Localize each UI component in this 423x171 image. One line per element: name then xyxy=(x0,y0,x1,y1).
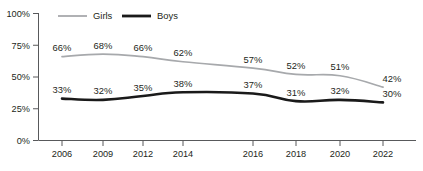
x-axis: 2006 2009 2012 2014 2016 2018 2020 2022 xyxy=(39,141,417,160)
x-axis-label-2012: 2012 xyxy=(133,149,153,159)
data-label-girls-2020: 51% xyxy=(331,61,350,72)
line-chart: 100% 75% 50% 25% 0% 2006 2009 2012 2014 … xyxy=(0,0,423,171)
x-axis-label-2014: 2014 xyxy=(173,149,193,159)
data-label-girls-2018: 52% xyxy=(287,60,306,71)
legend-label-boys: Boys xyxy=(157,10,178,21)
data-label-girls-2012: 66% xyxy=(134,42,153,53)
x-axis-label-2009: 2009 xyxy=(93,149,113,159)
data-label-boys-2018: 31% xyxy=(287,87,306,98)
legend: Girls Boys xyxy=(58,10,178,21)
data-label-boys-2014: 38% xyxy=(174,78,193,89)
data-label-boys-2006: 33% xyxy=(53,84,72,95)
y-axis-label-25: 25% xyxy=(12,104,30,114)
legend-label-girls: Girls xyxy=(93,10,113,21)
x-axis-label-2016: 2016 xyxy=(243,149,263,159)
data-label-girls-2022: 42% xyxy=(383,73,402,84)
data-label-girls-2006: 66% xyxy=(53,42,72,53)
data-label-boys-2016: 37% xyxy=(244,79,263,90)
x-axis-label-2006: 2006 xyxy=(52,149,72,159)
data-label-boys-2022: 30% xyxy=(383,88,402,99)
y-axis-label-50: 50% xyxy=(12,72,30,82)
x-axis-label-2020: 2020 xyxy=(330,149,350,159)
data-label-girls-2014: 62% xyxy=(174,47,193,58)
y-axis: 100% 75% 50% 25% 0% xyxy=(7,9,39,146)
y-axis-label-0: 0% xyxy=(17,136,30,146)
x-axis-label-2022: 2022 xyxy=(373,149,393,159)
y-axis-label-75: 75% xyxy=(12,41,30,51)
data-label-boys-2020: 32% xyxy=(331,85,350,96)
data-labels-boys: 33%32%35%38%37%31%32%30% xyxy=(53,78,402,99)
x-axis-label-2018: 2018 xyxy=(286,149,306,159)
data-label-girls-2009: 68% xyxy=(94,40,113,51)
data-label-boys-2012: 35% xyxy=(134,82,153,93)
chart-canvas: 100% 75% 50% 25% 0% 2006 2009 2012 2014 … xyxy=(0,0,423,171)
y-axis-label-100: 100% xyxy=(7,9,31,19)
data-label-boys-2009: 32% xyxy=(94,85,113,96)
data-label-girls-2016: 57% xyxy=(244,54,263,65)
